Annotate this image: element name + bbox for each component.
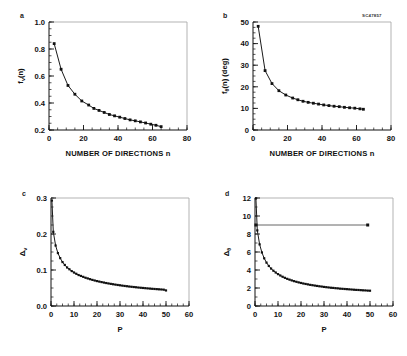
svg-text:P: P — [321, 325, 326, 334]
svg-text:0: 0 — [47, 134, 51, 143]
svg-text:10: 10 — [70, 310, 78, 319]
plot-d: 0102030405060024681012PΔθ — [203, 178, 407, 356]
panel-c: c 01020304050600.00.10.20.3PΔv — [0, 178, 204, 356]
plot-b: 02040608001020304050NUMBER OF DIRECTIONS… — [203, 0, 407, 178]
svg-text:0: 0 — [49, 310, 53, 319]
svg-text:0: 0 — [253, 310, 257, 319]
svg-text:12: 12 — [243, 194, 251, 203]
svg-text:60: 60 — [389, 310, 397, 319]
svg-text:30: 30 — [241, 61, 249, 70]
plot-a: 0204060800.20.40.60.81.0NUMBER OF DIRECT… — [0, 0, 204, 178]
svg-text:0: 0 — [247, 302, 251, 311]
svg-text:60: 60 — [185, 310, 193, 319]
svg-text:40: 40 — [139, 310, 147, 319]
svg-text:80: 80 — [387, 134, 395, 143]
svg-text:0.3: 0.3 — [36, 194, 47, 203]
svg-text:4: 4 — [247, 266, 252, 275]
svg-text:Δv: Δv — [18, 248, 28, 256]
svg-text:40: 40 — [241, 39, 249, 48]
svg-text:0: 0 — [251, 134, 255, 143]
svg-text:40: 40 — [318, 134, 326, 143]
svg-text:20: 20 — [283, 134, 291, 143]
svg-text:0.6: 0.6 — [34, 72, 45, 81]
svg-text:0.2: 0.2 — [34, 126, 45, 135]
svg-text:fθ(n) (deg): fθ(n) (deg) — [220, 58, 230, 94]
panel-letter-b: b — [223, 12, 227, 19]
panel-letter-a: a — [20, 12, 24, 19]
svg-text:0.8: 0.8 — [34, 45, 45, 54]
svg-text:0.4: 0.4 — [34, 99, 45, 108]
svg-text:40: 40 — [343, 310, 351, 319]
svg-text:50: 50 — [241, 18, 249, 27]
svg-text:10: 10 — [274, 310, 282, 319]
svg-text:20: 20 — [79, 134, 87, 143]
svg-text:NUMBER OF DIRECTIONS n: NUMBER OF DIRECTIONS n — [66, 149, 171, 158]
svg-text:40: 40 — [114, 134, 122, 143]
figure-container: SC47857 a 0204060800.20.40.60.81.0NUMBER… — [0, 0, 407, 356]
svg-text:50: 50 — [366, 310, 374, 319]
svg-text:20: 20 — [241, 83, 249, 92]
svg-text:30: 30 — [320, 310, 328, 319]
svg-text:0.0: 0.0 — [36, 302, 47, 311]
svg-text:2: 2 — [247, 284, 251, 293]
svg-text:1.0: 1.0 — [34, 18, 45, 27]
svg-text:0.2: 0.2 — [36, 230, 47, 239]
svg-text:50: 50 — [162, 310, 170, 319]
svg-text:20: 20 — [93, 310, 101, 319]
svg-text:0.1: 0.1 — [36, 266, 47, 275]
svg-text:20: 20 — [297, 310, 305, 319]
panel-b: b 02040608001020304050NUMBER OF DIRECTIO… — [203, 0, 407, 178]
svg-text:60: 60 — [352, 134, 360, 143]
svg-text:60: 60 — [148, 134, 156, 143]
svg-text:30: 30 — [116, 310, 124, 319]
svg-text:0: 0 — [245, 126, 249, 135]
svg-text:Δθ: Δθ — [222, 248, 232, 256]
svg-text:fv(n): fv(n) — [16, 68, 26, 84]
svg-text:8: 8 — [247, 230, 251, 239]
panel-d: d 0102030405060024681012PΔθ — [203, 178, 407, 356]
svg-text:NUMBER OF DIRECTIONS n: NUMBER OF DIRECTIONS n — [270, 149, 375, 158]
plot-c: 01020304050600.00.10.20.3PΔv — [0, 178, 204, 356]
svg-text:10: 10 — [243, 212, 251, 221]
svg-text:6: 6 — [247, 248, 251, 257]
panel-letter-c: c — [22, 190, 26, 197]
panel-letter-d: d — [225, 190, 229, 197]
svg-text:P: P — [117, 325, 122, 334]
svg-text:10: 10 — [241, 104, 249, 113]
panel-a: a 0204060800.20.40.60.81.0NUMBER OF DIRE… — [0, 0, 204, 178]
svg-text:80: 80 — [183, 134, 191, 143]
